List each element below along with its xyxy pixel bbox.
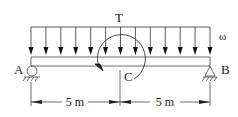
load-arrows xyxy=(29,27,213,55)
load-label: ω xyxy=(219,30,226,42)
arrow-down-icon xyxy=(88,47,93,55)
arrow-down-icon xyxy=(103,47,108,55)
arrow-down-icon xyxy=(178,47,183,55)
arrow-down-icon xyxy=(208,47,213,55)
support-b-label: B xyxy=(221,62,230,77)
beam-diagram: T ω A B C 5 m 5 m xyxy=(0,0,238,117)
arrow-down-icon xyxy=(43,47,48,55)
beam xyxy=(31,57,210,66)
dimension-left-label: 5 m xyxy=(66,95,85,109)
arrow-down-icon xyxy=(118,47,123,55)
dimension-lines xyxy=(31,70,210,106)
torque-arrowhead-icon xyxy=(95,64,103,71)
arrow-down-icon xyxy=(58,47,63,55)
midpoint-c-label: C xyxy=(124,69,133,84)
distributed-load xyxy=(29,27,213,55)
dimension-right-label: 5 m xyxy=(156,95,175,109)
arrow-down-icon xyxy=(148,47,153,55)
arrow-down-icon xyxy=(163,47,168,55)
arrow-down-icon xyxy=(133,47,138,55)
torque-label: T xyxy=(115,10,123,25)
roller-support-a xyxy=(23,66,40,81)
arrow-down-icon xyxy=(193,47,198,55)
arrow-down-icon xyxy=(73,47,78,55)
arrow-down-icon xyxy=(29,47,34,55)
support-a-label: A xyxy=(14,62,24,77)
pin-support-b xyxy=(202,66,217,81)
